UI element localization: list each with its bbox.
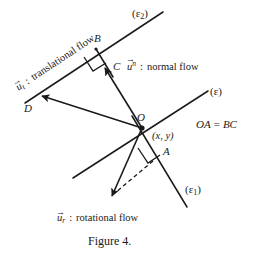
label-point-o: O xyxy=(137,112,145,123)
figure-caption: Figure 4. xyxy=(88,235,131,247)
point-marker-o xyxy=(139,125,144,130)
segment-bc xyxy=(96,49,113,77)
vector-rotational-flow xyxy=(112,128,142,196)
equation-right-term: BC xyxy=(223,118,237,130)
label-coordinates: (x, y) xyxy=(152,131,174,142)
label-text: rotational flow xyxy=(76,212,138,223)
line-epsilon2 xyxy=(25,12,163,103)
label-rotational-flow: →ur:rotational flow xyxy=(57,213,138,225)
equation-left-term: OA xyxy=(196,118,211,130)
equation-operator: = xyxy=(214,118,220,130)
vector-symbol-normal: →un xyxy=(127,60,136,73)
vector-arrow-icon: → xyxy=(56,208,65,217)
label-point-c: C xyxy=(113,61,120,72)
label-text: normal flow xyxy=(147,61,199,72)
figure-4-diagram: (ε2) (ε) (ε1) B C D O A (x, y) OA=BC →ut… xyxy=(0,0,261,255)
label-epsilon1: (ε1) xyxy=(185,184,201,197)
vector-translational-flow xyxy=(42,96,142,128)
label-point-a: A xyxy=(163,146,170,157)
label-separator: : xyxy=(69,212,72,223)
label-epsilon2: (ε2) xyxy=(132,8,148,21)
equation-oa-equals-bc: OA=BC xyxy=(196,119,237,130)
point-marker-b xyxy=(94,47,97,50)
label-epsilon2-close: ) xyxy=(144,7,148,19)
label-epsilon1-close: ) xyxy=(197,183,201,195)
label-separator: : xyxy=(140,61,143,72)
label-normal-flow: →un:normal flow xyxy=(127,60,199,73)
label-point-d: D xyxy=(24,103,32,114)
vector-symbol-rotational: →ur xyxy=(57,213,65,225)
vector-arrow-icon: → xyxy=(126,55,135,64)
vector-subscript: r xyxy=(62,216,65,225)
label-epsilon: (ε) xyxy=(210,86,222,97)
label-epsilon-base: (ε) xyxy=(210,85,222,97)
line-epsilon xyxy=(73,91,208,178)
